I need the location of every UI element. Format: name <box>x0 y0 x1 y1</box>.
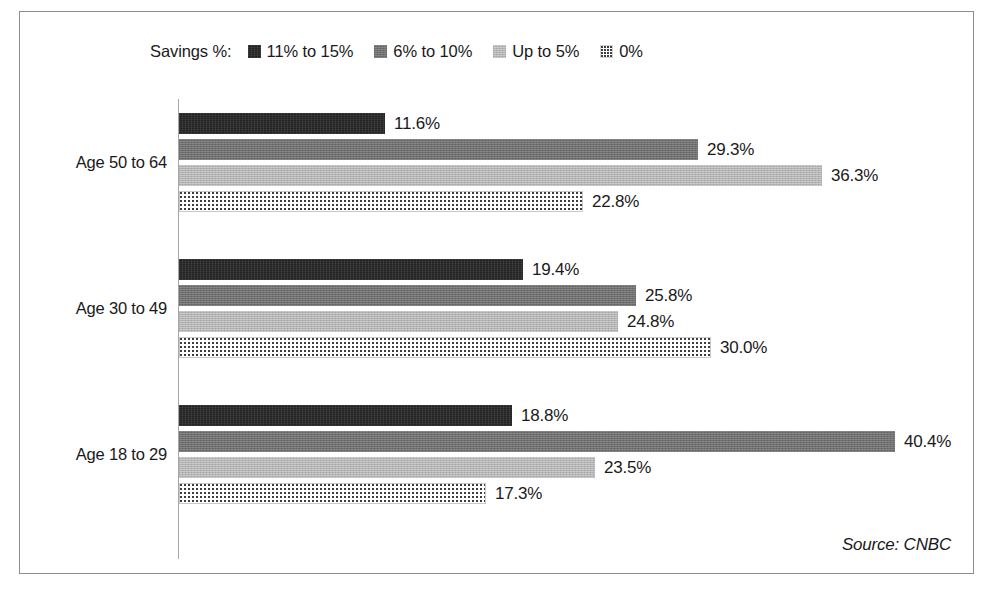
bar-value-label: 25.8% <box>645 286 692 306</box>
chart-frame: Savings %: 11% to 15% 6% to 10% Up to 5%… <box>19 11 974 574</box>
bar-value-label: 11.6% <box>394 114 440 134</box>
medium-grey-swatch-icon <box>374 45 387 58</box>
legend-title: Savings %: <box>150 42 232 61</box>
bar[interactable] <box>179 259 523 280</box>
bar-value-label: 23.5% <box>604 458 651 478</box>
chart-legend: Savings %: 11% to 15% 6% to 10% Up to 5%… <box>150 38 664 64</box>
bar[interactable] <box>179 311 618 332</box>
bar[interactable] <box>179 457 595 478</box>
bar-value-label: 24.8% <box>627 312 674 332</box>
bar[interactable] <box>179 191 583 212</box>
dark-swatch-icon <box>248 45 261 58</box>
legend-label-3: 0% <box>619 42 643 61</box>
bar-value-label: 19.4% <box>532 260 579 280</box>
legend-item-2[interactable]: Up to 5% <box>493 42 579 61</box>
bar[interactable] <box>179 431 895 452</box>
bar[interactable] <box>179 113 385 134</box>
bar[interactable] <box>179 483 486 504</box>
bar-value-label: 29.3% <box>707 140 754 160</box>
bar[interactable] <box>179 139 698 160</box>
legend-item-3[interactable]: 0% <box>600 42 643 61</box>
category-label-2: Age 18 to 29 <box>76 445 167 464</box>
bar[interactable] <box>179 337 711 358</box>
bar-value-label: 30.0% <box>720 338 767 358</box>
bar-value-label: 18.8% <box>521 406 568 426</box>
bar-value-label: 22.8% <box>592 192 639 212</box>
legend-label-2: Up to 5% <box>512 42 579 61</box>
bar[interactable] <box>179 165 822 186</box>
bar[interactable] <box>179 405 512 426</box>
legend-item-1[interactable]: 6% to 10% <box>374 42 472 61</box>
source-note: Source: CNBC <box>842 535 951 555</box>
legend-label-0: 11% to 15% <box>267 42 354 61</box>
bar[interactable] <box>179 285 636 306</box>
category-axis-labels: Age 50 to 64Age 30 to 49Age 18 to 29 <box>39 99 167 559</box>
dotted-swatch-icon <box>600 45 613 58</box>
category-label-0: Age 50 to 64 <box>76 153 167 172</box>
bar-value-label: 36.3% <box>831 166 878 186</box>
bar-value-label: 40.4% <box>904 432 951 452</box>
plot-area: 11.6%29.3%36.3%22.8%19.4%25.8%24.8%30.0%… <box>178 99 974 559</box>
bar-value-label: 17.3% <box>495 484 542 504</box>
legend-item-0[interactable]: 11% to 15% <box>248 42 354 61</box>
category-label-1: Age 30 to 49 <box>76 299 167 318</box>
light-grey-swatch-icon <box>493 45 506 58</box>
legend-label-1: 6% to 10% <box>393 42 472 61</box>
